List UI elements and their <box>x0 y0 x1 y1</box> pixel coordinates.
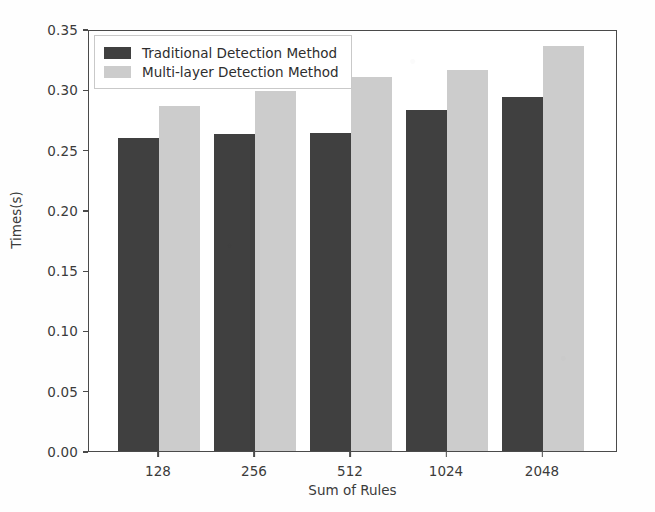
bar-128-series2 <box>159 106 200 451</box>
x-axis-tick-label: 512 <box>337 463 363 479</box>
x-axis-tick-mark <box>541 452 542 457</box>
legend-swatch-icon <box>104 66 131 78</box>
bar-1024-series2 <box>447 70 488 451</box>
bar-chart-figure: 0.000.050.100.150.200.250.300.35 Times(s… <box>0 0 655 512</box>
x-axis-tick: 2048 <box>525 452 559 479</box>
x-axis-tick-mark <box>349 452 350 457</box>
y-axis-tick-label: 0.10 <box>47 323 83 339</box>
bar-512-series2 <box>351 77 392 451</box>
x-axis-tick: 128 <box>145 452 171 479</box>
y-axis-tick-label: 0.00 <box>47 444 83 460</box>
y-axis-tick-label: 0.20 <box>47 203 83 219</box>
legend-label: Traditional Detection Method <box>142 45 337 61</box>
x-axis-tick-label: 1024 <box>429 463 463 479</box>
legend-entry: Multi-layer Detection Method <box>104 62 339 81</box>
y-axis-tick-label: 0.35 <box>47 22 83 38</box>
bar-1024-series1 <box>406 110 447 451</box>
legend-entry: Traditional Detection Method <box>104 43 339 62</box>
x-axis-tick-label: 256 <box>241 463 267 479</box>
x-axis-tick-mark <box>253 452 254 457</box>
bar-2048-series2 <box>543 46 584 451</box>
x-axis-tick: 256 <box>241 452 267 479</box>
x-axis-tick-label: 2048 <box>525 463 559 479</box>
x-axis-tick-mark <box>445 452 446 457</box>
chart-legend: Traditional Detection MethodMulti-layer … <box>94 35 352 89</box>
y-axis-title: Times(s) <box>8 140 24 300</box>
y-axis-tick-label: 0.30 <box>47 82 83 98</box>
y-axis-tick-label: 0.25 <box>47 143 83 159</box>
bar-512-series1 <box>310 133 351 451</box>
legend-swatch-icon <box>104 47 131 59</box>
x-axis-tick: 512 <box>337 452 363 479</box>
x-axis-title: Sum of Rules <box>88 482 617 498</box>
bar-256-series1 <box>214 134 255 451</box>
plot-area: Traditional Detection MethodMulti-layer … <box>88 30 617 452</box>
x-axis-tick: 1024 <box>429 452 463 479</box>
x-axis-tick-label: 128 <box>145 463 171 479</box>
y-axis-tick-label: 0.05 <box>47 384 83 400</box>
bar-128-series1 <box>118 138 159 451</box>
bar-2048-series1 <box>502 97 543 451</box>
legend-label: Multi-layer Detection Method <box>142 64 339 80</box>
x-axis-tick-mark <box>157 452 158 457</box>
bar-256-series2 <box>255 91 296 452</box>
y-axis-tick-label: 0.15 <box>47 263 83 279</box>
